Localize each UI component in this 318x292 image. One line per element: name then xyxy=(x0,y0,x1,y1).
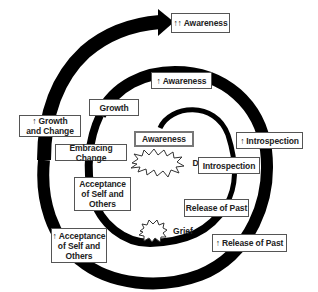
awareness-label: Awareness xyxy=(163,76,207,86)
up-arrow-icon: ↑ xyxy=(157,76,161,86)
up-arrow-icon: ↑ xyxy=(216,238,220,248)
growth-label: Growth xyxy=(99,103,128,113)
release-of-past-label: Release of Past xyxy=(186,203,247,213)
double-up-awareness-box: ↑↑ Awareness xyxy=(171,13,230,33)
up-growth-and-change-box: ↑Growth and Change xyxy=(19,115,81,137)
release-of-past-box: Release of Past xyxy=(184,199,249,217)
awareness-box: Awareness xyxy=(134,131,194,147)
introspection-box: Introspection xyxy=(198,157,260,174)
up-arrow-icon: ↑ xyxy=(32,116,36,126)
release-of-past-label: Release of Past xyxy=(222,238,283,248)
discomfort-burst: Discomfort xyxy=(128,148,186,178)
starburst-icon xyxy=(138,219,168,243)
acceptance-label: Acceptance of Self and Others xyxy=(79,179,126,209)
growth-box: Growth xyxy=(89,99,139,116)
acceptance-label: Acceptance xyxy=(59,231,106,241)
embracing-change-label: Embracing Change xyxy=(56,143,126,163)
starburst-icon xyxy=(128,148,186,178)
up-arrow-icon: ↑ xyxy=(53,231,57,241)
up-arrow-icon: ↑ xyxy=(240,136,244,146)
introspection-label: Introspection xyxy=(203,161,256,171)
awareness-label: Awareness xyxy=(184,18,228,28)
growth-label: Growth xyxy=(39,116,68,126)
up-acceptance-box: ↑Acceptance of Self and Others xyxy=(51,228,107,263)
embracing-change-box: Embracing Change xyxy=(55,144,127,161)
introspection-label: Introspection xyxy=(246,136,299,146)
and-change-label: and Change xyxy=(26,126,74,136)
up-introspection-box: ↑ Introspection xyxy=(236,132,303,149)
grief-burst: Grief xyxy=(138,219,168,243)
up-awareness-box: ↑ Awareness xyxy=(151,72,212,89)
double-up-arrow-icon: ↑↑ xyxy=(173,18,181,28)
up-release-of-past-box: ↑ Release of Past xyxy=(212,234,287,252)
of-self-and-others-label: of Self and Others xyxy=(58,241,100,261)
awareness-label: Awareness xyxy=(142,134,186,144)
grief-label: Grief xyxy=(168,226,198,236)
acceptance-box: Acceptance of Self and Others xyxy=(74,177,131,211)
